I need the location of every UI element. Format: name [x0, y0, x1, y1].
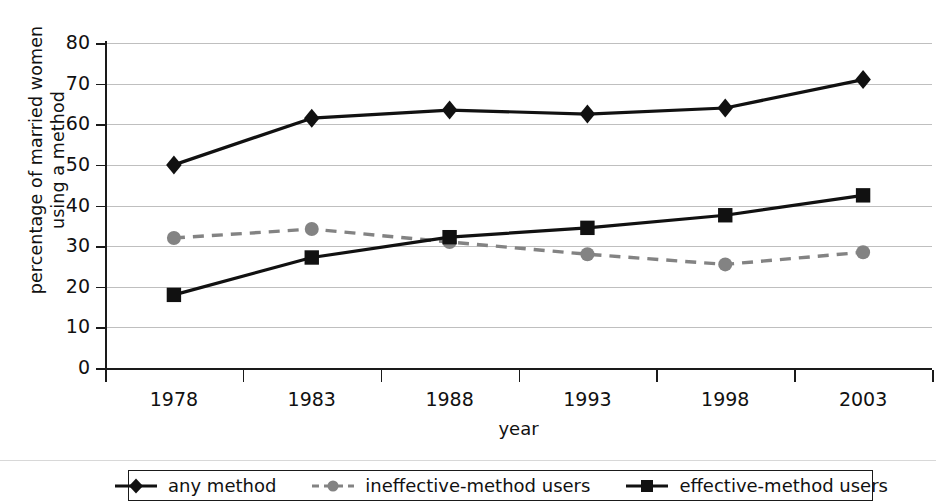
- series-any-method: [166, 70, 871, 174]
- chart-figure: percentage of married women using a meth…: [0, 0, 936, 501]
- data-point-marker: [580, 221, 594, 235]
- series-line: [174, 229, 863, 264]
- series-effective-method-users: [167, 188, 871, 302]
- legend-label-ineffective-method-users: ineffective-method users: [365, 475, 590, 496]
- data-point-marker: [717, 99, 733, 118]
- series-layer: [0, 0, 936, 501]
- data-point-marker: [442, 230, 456, 244]
- legend-label-effective-method-users: effective-method users: [679, 475, 888, 496]
- series-line: [174, 195, 863, 295]
- data-point-marker: [166, 155, 182, 174]
- data-point-marker: [305, 222, 319, 236]
- chart-legend: any method ineffective-method users effe…: [128, 470, 873, 501]
- legend-item-effective-method-users[interactable]: effective-method users: [624, 475, 888, 496]
- data-point-marker: [856, 188, 870, 202]
- circle-marker-icon: [310, 477, 356, 495]
- data-point-marker: [718, 257, 732, 271]
- diamond-marker-icon: [113, 477, 159, 495]
- data-point-marker: [305, 250, 319, 264]
- series-line: [174, 80, 863, 165]
- data-point-marker: [167, 231, 181, 245]
- legend-label-any-method: any method: [168, 475, 276, 496]
- data-point-marker: [167, 288, 181, 302]
- legend-item-any-method[interactable]: any method: [113, 475, 276, 496]
- square-marker-icon: [624, 477, 670, 495]
- data-point-marker: [442, 101, 458, 120]
- series-ineffective-method-users: [167, 222, 870, 271]
- legend-item-ineffective-method-users[interactable]: ineffective-method users: [310, 475, 590, 496]
- data-point-marker: [580, 105, 596, 124]
- data-point-marker: [580, 247, 594, 261]
- data-point-marker: [304, 109, 320, 128]
- data-point-marker: [855, 70, 871, 89]
- divider-rule: [0, 460, 936, 461]
- data-point-marker: [856, 245, 870, 259]
- data-point-marker: [718, 208, 732, 222]
